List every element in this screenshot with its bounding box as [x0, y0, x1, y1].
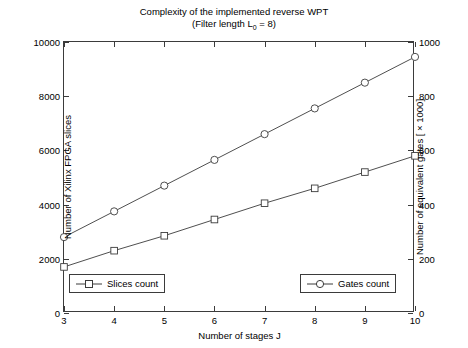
x-tick-label: 10	[400, 315, 430, 326]
x-tick-label: 9	[350, 315, 380, 326]
x-tick	[415, 306, 416, 311]
y-right-tick	[408, 313, 413, 314]
legend-slices-label: Slices count	[107, 278, 158, 289]
data-point-marker	[161, 182, 168, 189]
x-tick-label: 5	[149, 315, 179, 326]
series-plot	[64, 42, 415, 313]
y-axis-right-title: Number of equivalent gates [ × 1000]	[414, 62, 425, 292]
chart-title-line2: (Filter length L0 = 8)	[0, 18, 468, 30]
chart-title: Complexity of the implemented reverse WP…	[0, 6, 468, 30]
y-left-tick-label: 2000	[4, 253, 60, 264]
x-tick-label: 6	[199, 315, 229, 326]
legend-slices-count[interactable]: Slices count	[69, 274, 165, 293]
y-left-tick-label: 6000	[4, 145, 60, 156]
y-left-tick	[64, 313, 69, 314]
data-point-marker	[111, 208, 118, 215]
chart-title-line1: Complexity of the implemented reverse WP…	[0, 6, 468, 18]
y-right-tick-label: 1000	[419, 37, 468, 48]
x-tick-label: 8	[300, 315, 330, 326]
data-point-marker	[362, 169, 369, 176]
legend-gates-label: Gates count	[338, 278, 389, 289]
y-right-tick-label: 200	[419, 253, 468, 264]
data-point-marker	[261, 200, 268, 207]
legend-marker-square-icon	[76, 278, 102, 290]
data-point-marker	[261, 131, 268, 138]
y-right-tick-label: 600	[419, 145, 468, 156]
x-tick-top	[415, 42, 416, 47]
data-point-marker	[311, 185, 318, 192]
y-axis-left-title: Number of Xilinx FPGA slices	[62, 62, 73, 292]
chart-subtitle-suffix: = 8)	[257, 18, 276, 29]
y-right-tick-label: 800	[419, 91, 468, 102]
plot-area: 0200040006000800010000 02004006008001000…	[63, 41, 414, 312]
legend-gates-count[interactable]: Gates count	[300, 274, 396, 293]
chart-figure: Complexity of the implemented reverse WP…	[0, 0, 468, 348]
data-point-marker	[211, 156, 218, 163]
chart-subtitle-prefix: (Filter length L	[192, 18, 253, 29]
y-left-tick-label: 8000	[4, 91, 60, 102]
data-point-marker	[211, 216, 218, 223]
x-tick-label: 4	[99, 315, 129, 326]
x-axis-title: Number of stages J	[64, 330, 415, 341]
x-tick-label: 3	[49, 315, 79, 326]
y-right-tick-label: 400	[419, 199, 468, 210]
data-point-marker	[411, 53, 418, 60]
data-point-marker	[111, 247, 118, 254]
data-point-marker	[311, 105, 318, 112]
data-point-marker	[161, 232, 168, 239]
y-left-tick-label: 10000	[4, 37, 60, 48]
data-point-marker	[361, 79, 368, 86]
legend-marker-circle-icon	[307, 278, 333, 290]
y-left-tick-label: 4000	[4, 199, 60, 210]
x-tick-label: 7	[250, 315, 280, 326]
